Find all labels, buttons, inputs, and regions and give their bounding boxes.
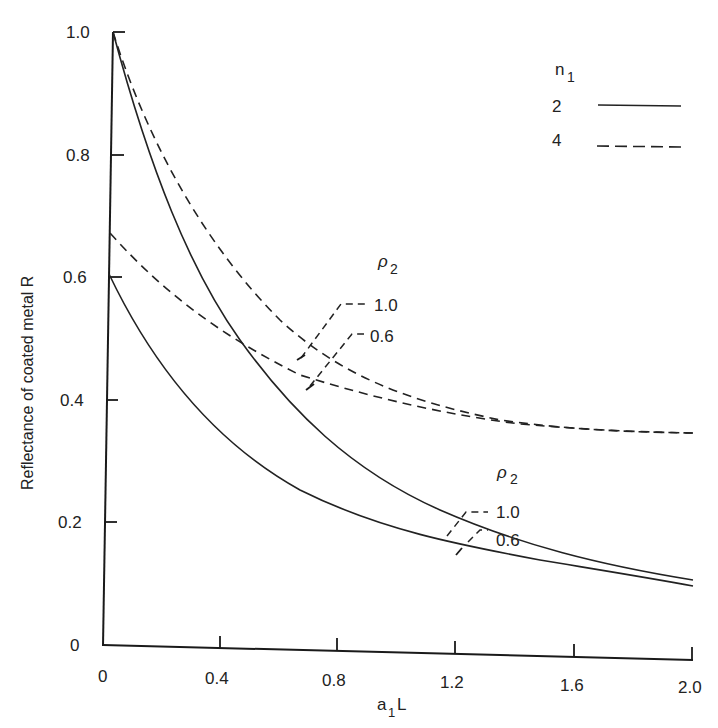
x-axis [103, 645, 693, 660]
leader-line-0.6 [468, 530, 488, 542]
x-axis-title-tail: L [397, 695, 406, 714]
x-tick-label: 0 [98, 667, 107, 686]
rho-annotation-solid: ρ 2 1.0 0.6 [447, 463, 520, 555]
rho-symbol: ρ [496, 463, 507, 482]
y-axis [103, 32, 113, 646]
y-tick-label: 0.6 [63, 268, 87, 287]
axes [103, 32, 693, 660]
leader-line-0.6 [310, 334, 364, 386]
x-tick-label: 1.2 [440, 673, 464, 692]
curve-n1-2-rho-1.0 [113, 32, 693, 580]
rho-symbol: ρ [377, 252, 388, 271]
x-axis-title: a 1 L [377, 695, 406, 720]
legend: n 1 2 4 [552, 60, 681, 150]
rho-subscript: 2 [390, 261, 398, 277]
legend-label-dashed: 4 [552, 131, 561, 150]
leader-line-1.0 [301, 304, 367, 358]
curve-n1-2-rho-0.6 [109, 274, 693, 586]
rho-value-1.0: 1.0 [496, 503, 520, 522]
x-tick-label: 0.8 [322, 671, 346, 690]
legend-title-sub: 1 [567, 69, 575, 85]
rho-value-0.6: 0.6 [496, 531, 520, 550]
legend-swatch-solid [598, 105, 681, 106]
x-tick-label: 0.4 [205, 669, 229, 688]
x-tick-label: 2.0 [678, 678, 702, 697]
y-axis-title: Reflectance of coated metal R [19, 276, 36, 490]
y-tick-label: 0.2 [58, 513, 82, 532]
rho-value-0.6: 0.6 [370, 327, 394, 346]
curve-n1-4-rho-1.0 [113, 32, 693, 433]
rho-value-1.0: 1.0 [374, 296, 398, 315]
x-tick-label: 1.6 [560, 676, 584, 695]
reflectance-chart: 1.0 0.8 0.6 0.4 0.2 0 0 0.4 0.8 1.2 1.6 … [0, 0, 718, 728]
x-axis-title-sub: 1 [388, 705, 395, 720]
x-tick-labels: 0 0.4 0.8 1.2 1.6 2.0 [98, 667, 702, 697]
y-tick-label: 0 [70, 636, 79, 655]
x-axis-title-main: a [377, 695, 387, 714]
legend-swatch-dashed [597, 146, 681, 147]
y-tick-label: 1.0 [66, 23, 90, 42]
curve-n1-4-rho-0.6 [110, 233, 693, 433]
legend-label-solid: 2 [552, 97, 561, 116]
rho-subscript: 2 [510, 471, 518, 487]
legend-title-main: n [555, 60, 564, 79]
y-tick-label: 0.4 [60, 391, 84, 410]
y-tick-labels: 1.0 0.8 0.6 0.4 0.2 0 [58, 23, 90, 655]
rho-annotation-dashed: ρ 2 1.0 0.6 [297, 252, 398, 390]
leader-tick [456, 548, 462, 555]
y-tick-label: 0.8 [66, 146, 90, 165]
leader-tick [297, 355, 305, 360]
